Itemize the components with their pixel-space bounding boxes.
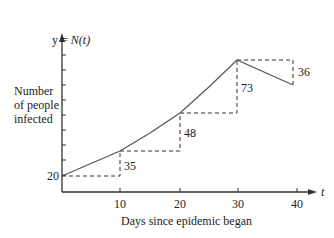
step-label-35: 35 <box>124 159 136 173</box>
x-axis-label: Days since epidemic began <box>121 214 252 228</box>
y-axis-title: y = N(t) <box>52 33 90 47</box>
infection-curve <box>62 60 293 176</box>
x-tick-label-40: 40 <box>291 197 303 211</box>
y-axis-label-line-3: infected <box>14 112 53 126</box>
y-axis-label-line-1: Number <box>14 84 53 98</box>
x-axis-symbol: t <box>321 185 325 199</box>
chart-canvas: y = N(t) Number of people infected 20 35… <box>0 0 334 238</box>
x-tick-label-10: 10 <box>114 197 126 211</box>
step-label-36: 36 <box>298 65 310 79</box>
x-tick-label-20: 20 <box>174 197 186 211</box>
step-label-48: 48 <box>184 126 196 140</box>
y-axis-label-line-2: of people <box>14 98 59 112</box>
x-axis-arrow-icon <box>308 189 317 195</box>
start-value-label: 20 <box>47 169 59 183</box>
step-label-73: 73 <box>241 81 253 95</box>
step-guides <box>62 60 293 176</box>
x-tick-label-30: 30 <box>232 197 244 211</box>
